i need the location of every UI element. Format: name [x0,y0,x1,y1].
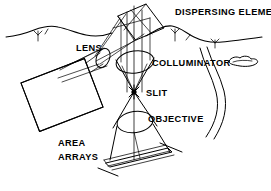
tree-tick-icon [171,29,179,41]
label-area-arrays-line2: ARRAYS [58,152,98,162]
label-objective: OBJECTIVE [148,114,204,124]
terrain-left-ridge [6,26,112,37]
detector-support-arm [86,53,100,63]
area-array-detector [21,59,103,132]
label-dispersing-element: DISPERSING ELEMENT [175,7,271,17]
converging-ray [122,66,134,92]
label-slit: SLIT [146,88,168,98]
figure-root: DISPERSING ELEMENT LENS COLLUMINATOR SLI… [0,0,271,191]
tree-tick-icon [186,35,190,40]
tree-tick-icon [34,31,42,41]
spectrometer-diagram: DISPERSING ELEMENT LENS COLLUMINATOR SLI… [0,0,271,191]
label-lens: LENS [76,43,102,53]
cloud-icon [229,56,258,66]
aperture-ray [134,132,140,158]
labels-layer: DISPERSING ELEMENT LENS COLLUMINATOR SLI… [58,7,271,162]
label-colluminator: COLLUMINATOR [152,58,230,68]
objective-to-aperture-ray [110,126,117,160]
label-area-arrays-line1: AREA [58,138,86,148]
tree-tick-icon [45,29,48,34]
converging-cone-upper [116,58,154,92]
tree-tick-icon [211,39,219,48]
imaging-ray-bundle [95,4,152,64]
cloud-detail [233,60,252,62]
